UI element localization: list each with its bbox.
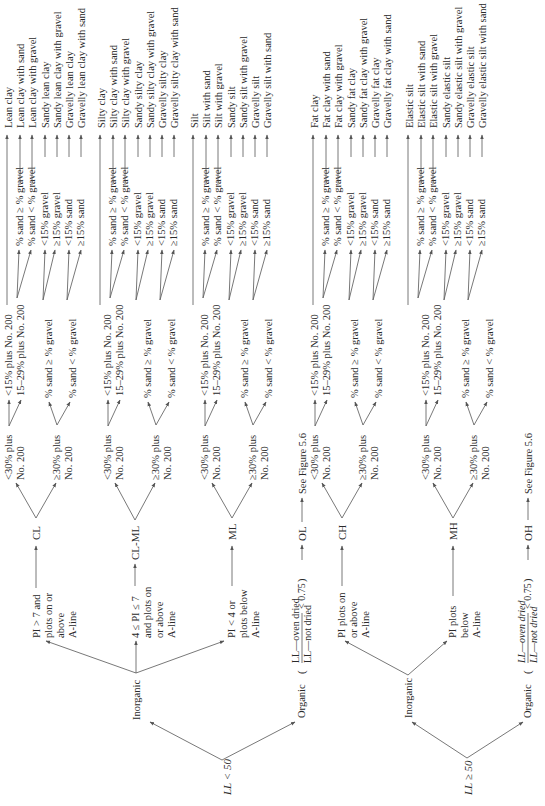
arrow-to-organic-high bbox=[467, 722, 523, 758]
leaf-condition: % sand ≥ % gravel bbox=[200, 167, 211, 246]
fines-sand-ge-gravel: % sand ≥ % gravel bbox=[239, 319, 250, 398]
fines-15-29: 15–29% plus No. 200 bbox=[321, 304, 332, 396]
arrow-15-29 bbox=[9, 400, 21, 426]
fines-lt15: <15% plus No. 200 bbox=[420, 314, 431, 396]
svg-text:or above: or above bbox=[348, 601, 359, 638]
arrow-sand-lt-gravel bbox=[474, 402, 487, 425]
leaf-condition: ≥15% sand bbox=[261, 198, 272, 246]
organic-high-paren-open: ( bbox=[522, 670, 534, 674]
leaf-condition: ≥15% gravel bbox=[144, 192, 155, 246]
leaf-condition: ≥15% gravel bbox=[357, 192, 368, 246]
fines-15-29: 15–29% plus No. 200 bbox=[15, 304, 26, 396]
fines-lt30: No. 200 bbox=[114, 446, 125, 480]
leaf-condition: % sand < % gravel bbox=[427, 167, 438, 246]
fines-ge30: ≥30% plus bbox=[468, 435, 479, 480]
svg-text:PI plots on: PI plots on bbox=[336, 592, 347, 638]
fines-ge30: No. 200 bbox=[369, 446, 380, 480]
svg-text:below: below bbox=[459, 612, 470, 638]
see-figure-high: See Figure 5.6 bbox=[523, 433, 534, 494]
organic-low-ratio-den: LL—not dried bbox=[302, 605, 313, 663]
group-ch: CH bbox=[336, 525, 348, 540]
soil-name: Gravelly elastic silt bbox=[465, 46, 476, 128]
organic-high-label: Organic bbox=[522, 684, 533, 718]
soil-name: Sandy silt with gravel bbox=[238, 36, 249, 128]
svg-text:A-line: A-line bbox=[360, 611, 371, 638]
fines-lt15: <15% plus No. 200 bbox=[3, 314, 14, 396]
fines-15-29: 15–29% plus No. 200 bbox=[114, 304, 125, 396]
soil-name: Sandy fat clay with gravel bbox=[358, 18, 369, 128]
group-clml: CL-ML bbox=[129, 526, 141, 561]
svg-text:A-line: A-line bbox=[166, 611, 177, 638]
fines-ge30: ≥30% plus bbox=[51, 435, 62, 480]
organic-high-paren-close: ) bbox=[522, 578, 534, 582]
leaf-condition: <15% sand bbox=[156, 198, 167, 246]
group-cl: CL bbox=[30, 526, 42, 540]
soil-name: Sandy lean clay bbox=[40, 61, 51, 128]
organic-low-ratio-cmp: < 0.75 bbox=[296, 583, 307, 609]
soil-name: Fat clay bbox=[309, 94, 320, 128]
svg-text:A-line: A-line bbox=[67, 611, 78, 638]
soil-name: Gravelly lean clay with sand bbox=[76, 7, 87, 128]
clml-condition: 4 ≤ PI ≤ 7 and plots on or above A-line bbox=[130, 586, 177, 638]
fines-15-29: 15–29% plus No. 200 bbox=[211, 304, 222, 396]
arrow-ge30 bbox=[232, 483, 252, 518]
svg-text:4 ≤ PI ≤ 7: 4 ≤ PI ≤ 7 bbox=[130, 596, 141, 638]
arrow-to-organic-low bbox=[222, 722, 295, 760]
soil-name: Gravelly silty clay with sand bbox=[169, 7, 180, 128]
soil-name: Gravelly silty clay bbox=[157, 50, 168, 128]
leaf-condition: <15% gravel bbox=[39, 192, 50, 246]
leaf-condition: % sand ≥ % gravel bbox=[415, 167, 426, 246]
leaf-condition: <15% gravel bbox=[440, 192, 451, 246]
soil-name: Sandy elastic silt bbox=[441, 57, 452, 128]
svg-text:plots below: plots below bbox=[238, 589, 249, 638]
fines-15-29: 15–29% plus No. 200 bbox=[432, 304, 443, 396]
fines-lt30: No. 200 bbox=[432, 446, 443, 480]
fines-sand-lt-gravel: % sand < % gravel bbox=[263, 319, 274, 398]
arrow-to-ch-condition bbox=[345, 641, 408, 675]
soil-name: Silt bbox=[189, 113, 200, 128]
svg-text:PI plots: PI plots bbox=[447, 606, 458, 638]
soil-name: Elastic silt with gravel bbox=[428, 34, 439, 128]
fines-ge30: No. 200 bbox=[63, 446, 74, 480]
arrow-sand-ge-gravel bbox=[49, 402, 57, 425]
group-ol: OL bbox=[296, 526, 308, 541]
leaf-condition: % sand < % gravel bbox=[212, 167, 223, 246]
fines-lt30: <30% plus bbox=[420, 435, 431, 480]
arrow-lt30 bbox=[212, 483, 232, 518]
soil-name: Silty clay bbox=[96, 87, 107, 128]
soil-name: Elastic silt bbox=[404, 84, 415, 128]
fines-sand-lt-gravel: % sand < % gravel bbox=[373, 319, 384, 398]
cl-condition: PI > 7 and plots on or above A-line bbox=[31, 593, 78, 638]
group-ml: ML bbox=[226, 523, 238, 540]
arrow-ge30 bbox=[342, 483, 362, 518]
arrow-15-29 bbox=[108, 400, 120, 426]
fines-ge30: No. 200 bbox=[259, 446, 270, 480]
arrow-ge30 bbox=[36, 483, 56, 518]
svg-text:PI > 7 and: PI > 7 and bbox=[31, 594, 42, 638]
organic-low-label: Organic bbox=[296, 684, 307, 718]
leaf-condition: ≥15% gravel bbox=[452, 192, 463, 246]
soil-name: Sandy silt bbox=[226, 86, 237, 128]
soil-name: Fat clay with sand bbox=[321, 51, 332, 128]
fines-sand-lt-gravel: % sand < % gravel bbox=[484, 319, 495, 398]
organic-high-ratio-den: LL—not dried bbox=[528, 606, 539, 664]
see-figure-low: See Figure 5.6 bbox=[297, 433, 308, 494]
svg-text:plots on or: plots on or bbox=[43, 593, 54, 638]
soil-name: Sandy lean clay with gravel bbox=[52, 11, 63, 128]
fines-sand-ge-gravel: % sand ≥ % gravel bbox=[460, 319, 471, 398]
arrow-sand-lt-gravel bbox=[253, 402, 266, 425]
arrow-to-inorganic-high bbox=[412, 722, 467, 758]
fines-lt30: <30% plus bbox=[199, 435, 210, 480]
leaf-condition: % sand ≥ % gravel bbox=[14, 167, 25, 246]
fines-ge30: No. 200 bbox=[480, 446, 491, 480]
fines-ge30: ≥30% plus bbox=[357, 435, 368, 480]
arrow-sand-ge-gravel bbox=[355, 402, 363, 425]
svg-text:and plots on: and plots on bbox=[142, 586, 153, 638]
fines-lt30: No. 200 bbox=[321, 446, 332, 480]
ml-condition: PI < 4 or plots below A-line bbox=[226, 589, 261, 638]
soil-name: Gravelly silt bbox=[250, 76, 261, 128]
group-mh: MH bbox=[447, 522, 459, 540]
soil-name: Lean clay bbox=[3, 86, 14, 128]
soil-name: Gravelly elastic silt with sand bbox=[477, 2, 488, 128]
arrow-sand-lt-gravel bbox=[363, 402, 376, 425]
